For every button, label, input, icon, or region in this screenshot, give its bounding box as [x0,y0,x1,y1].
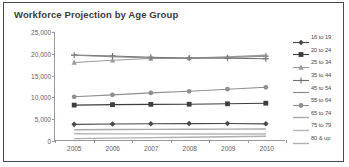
legend-item-label: 55 to 64 [311,97,331,103]
series-55-to-64 [72,85,268,99]
data-point [71,122,77,128]
legend-item-label: 35 to 44 [311,72,331,78]
legend-marker-line-icon [293,121,309,130]
data-point [187,102,192,107]
x-axis-tick-mark [209,140,210,143]
legend-item[interactable]: 65 to 74 [293,107,347,120]
y-axis-tick-label: 10,000 [31,94,51,101]
y-axis-tick-label: 15,000 [31,72,51,79]
chart-title: Workforce Projection by Age Group [14,9,178,20]
x-axis-tick-mark [171,140,172,143]
legend-item-label: 45 to 54 [311,85,331,91]
x-axis-tick-mark [94,140,95,143]
legend-item-label: 65 to 74 [311,110,331,116]
legend-marker-square-icon [293,45,309,54]
legend-item-label: 20 to 24 [311,47,331,53]
data-point [72,103,77,108]
legend-marker-line-icon [293,134,309,143]
data-point [148,102,153,107]
legend-item-label: 80 & up [311,135,330,141]
legend-item-label: 25 to 34 [311,59,331,65]
x-axis-tick-mark [286,140,287,143]
legend-item[interactable]: 25 to 34 [293,56,347,69]
y-axis-tick-label: 0 [47,138,51,145]
data-point [110,53,116,59]
legend-marker-triangle-icon [293,58,309,67]
plot-area: 05,00010,00015,00020,00025,000 200520062… [54,32,285,141]
data-point [186,121,192,127]
data-point [72,94,77,99]
data-point [263,85,268,90]
series-65-to-74 [74,129,266,130]
legend-marker-circle-icon [293,96,309,105]
data-point [225,55,231,61]
data-point [110,102,115,107]
x-axis-tick-mark [55,140,56,143]
series-80-up [74,136,266,138]
data-point [148,121,154,127]
y-axis-tick-label: 25,000 [31,29,51,36]
data-point [148,54,154,60]
chart-legend: 16 to 1920 to 2425 to 3435 to 4445 to 54… [293,31,347,144]
y-axis-tick-label: 5,000 [35,116,51,123]
x-axis-tick-label: 2010 [260,145,274,152]
x-axis-tick-label: 2008 [183,145,197,152]
y-axis-tick-label: 20,000 [31,50,51,57]
series-lines [55,32,285,140]
legend-item[interactable]: 20 to 24 [293,44,347,57]
data-point [263,101,268,106]
x-axis-tick-label: 2009 [221,145,235,152]
legend-item[interactable]: 16 to 19 [293,31,347,44]
legend-item-label: 16 to 19 [311,34,331,40]
series-20-to-24 [72,101,268,108]
data-point [263,121,269,127]
legend-marker-dash-icon [293,83,309,92]
data-point [148,91,153,96]
data-point [187,89,192,94]
x-axis-tick-label: 2006 [106,145,120,152]
chart-frame: Workforce Projection by Age Group 05,000… [3,2,344,162]
data-point [225,121,231,127]
legend-marker-diamond-icon [293,33,309,42]
legend-marker-cross-icon [293,71,309,80]
legend-item[interactable]: 75 to 79 [293,119,347,132]
data-point [110,92,115,97]
legend-marker-line-icon [293,108,309,117]
x-axis-tick-label: 2007 [144,145,158,152]
legend-item[interactable]: 55 to 64 [293,94,347,107]
data-point [110,121,116,127]
legend-item[interactable]: 80 & up [293,132,347,145]
data-point [225,87,230,92]
data-point [225,101,230,106]
x-axis-tick-label: 2005 [67,145,81,152]
legend-item[interactable]: 45 to 54 [293,81,347,94]
legend-item[interactable]: 35 to 44 [293,69,347,82]
x-axis-tick-mark [132,140,133,143]
legend-item-label: 75 to 79 [311,122,331,128]
series-16-to-19 [71,121,268,127]
x-axis-tick-mark [248,140,249,143]
